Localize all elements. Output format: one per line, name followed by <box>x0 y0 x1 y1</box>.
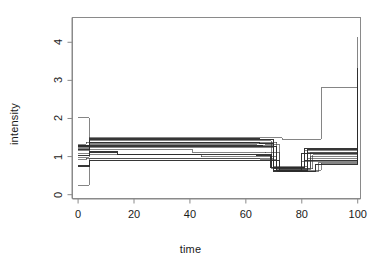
x-tick-label: 80 <box>296 208 308 220</box>
x-tick-label: 100 <box>349 208 367 220</box>
y-axis-label: intensity <box>8 84 20 164</box>
y-tick-label: 4 <box>52 33 64 51</box>
step-trace <box>78 99 358 171</box>
y-tick-label: 3 <box>52 71 64 89</box>
x-tick-label: 0 <box>75 208 81 220</box>
step-trace <box>78 37 358 140</box>
step-trace <box>78 95 358 166</box>
x-tick-label: 40 <box>184 208 196 220</box>
y-tick-label: 2 <box>52 109 64 127</box>
x-tick-label: 60 <box>240 208 252 220</box>
step-trace <box>78 91 358 169</box>
x-axis-label: time <box>0 243 381 255</box>
x-tick-label: 20 <box>128 208 140 220</box>
series-group <box>78 37 358 186</box>
chart-figure: intensity time 02040608010001234 <box>0 0 381 269</box>
y-tick-label: 0 <box>52 186 64 204</box>
step-trace <box>78 68 358 171</box>
step-trace <box>78 88 358 167</box>
y-tick-label: 1 <box>52 148 64 166</box>
step-trace <box>78 126 358 172</box>
